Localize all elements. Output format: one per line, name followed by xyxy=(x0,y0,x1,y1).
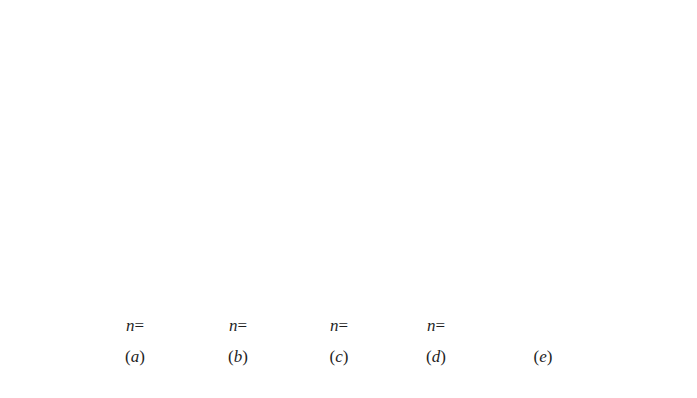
caption-a: (a) xyxy=(125,347,145,367)
earth-pressure-distribution-diagram xyxy=(0,0,697,398)
caption-e: (e) xyxy=(534,347,553,367)
caption-b: (b) xyxy=(228,347,248,367)
n-value-label-b: n= xyxy=(229,316,247,336)
n-value-label-c: n= xyxy=(330,316,348,336)
caption-c: (c) xyxy=(330,347,349,367)
n-value-label-a: n= xyxy=(126,316,144,336)
n-value-label-d: n= xyxy=(427,316,445,336)
caption-d: (d) xyxy=(426,347,446,367)
